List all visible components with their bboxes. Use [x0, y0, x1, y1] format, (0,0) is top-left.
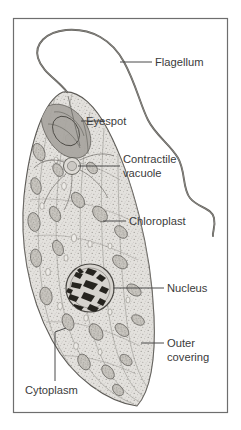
label-outer-covering-line1: Outer — [167, 337, 195, 349]
label-eyespot: Eyespot — [86, 115, 127, 127]
diagram-figure: Flagellum Eyespot Contractile vacuole Ch… — [0, 0, 241, 430]
label-contractile-vacuole-line2: vacuole — [123, 167, 162, 179]
label-cytoplasm: Cytoplasm — [25, 384, 78, 396]
label-contractile-vacuole-line1: Contractile — [123, 153, 176, 165]
label-nucleus: Nucleus — [167, 282, 208, 294]
label-chloroplast: Chloroplast — [129, 215, 186, 227]
label-outer-covering-line2: covering — [167, 351, 209, 363]
label-flagellum: Flagellum — [155, 56, 204, 68]
euglena-diagram-svg: Flagellum Eyespot Contractile vacuole Ch… — [0, 0, 241, 430]
